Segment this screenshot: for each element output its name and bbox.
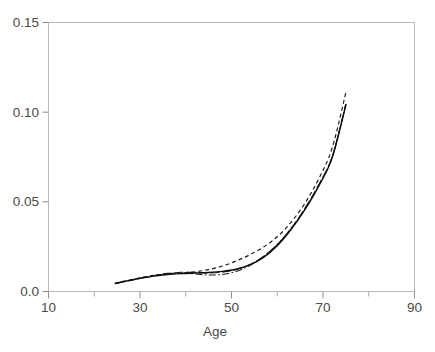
line-chart: 0.15 0.10 0.05 0.0 10 30 50 70 90 (0, 0, 435, 352)
curve-solid (115, 105, 346, 283)
x-tick-label-2: 50 (224, 300, 239, 315)
y-tick-label-2: 0.10 (13, 105, 39, 120)
plot-frame (49, 23, 415, 292)
figure-container: 0.15 0.10 0.05 0.0 10 30 50 70 90 (0, 0, 435, 352)
y-tick-label-1: 0.05 (13, 194, 39, 209)
x-tick-label-4: 90 (407, 300, 422, 315)
x-tick-label-0: 10 (41, 300, 56, 315)
x-axis-ticks (49, 292, 415, 299)
y-tick-label-0: 0.0 (20, 284, 39, 299)
x-axis-title: Age (203, 324, 227, 339)
curve-dashed (115, 92, 346, 283)
x-axis-labels: 10 30 50 70 90 (41, 300, 422, 315)
x-tick-label-1: 30 (132, 300, 147, 315)
y-axis-labels: 0.15 0.10 0.05 0.0 (13, 15, 39, 299)
y-axis-ticks (43, 23, 49, 292)
data-curves (115, 92, 346, 283)
x-tick-label-3: 70 (315, 300, 330, 315)
frame-box (49, 23, 415, 292)
y-tick-label-3: 0.15 (13, 15, 39, 30)
